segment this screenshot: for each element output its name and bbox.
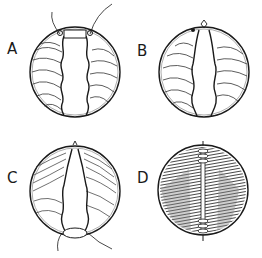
panel-d: D: [131, 129, 262, 258]
diagram-c: [0, 129, 131, 258]
diagram-d: [131, 129, 262, 258]
panel-a: A: [0, 0, 131, 129]
panel-b: B: [131, 0, 262, 129]
diagram-b: [131, 0, 262, 129]
panel-c: C: [0, 129, 131, 258]
diagram-a: [0, 0, 131, 129]
